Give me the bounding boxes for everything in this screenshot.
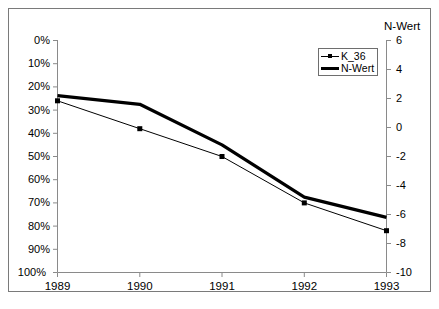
- y-left-tick-label: 80%: [8, 221, 50, 232]
- caption-partial-text: [6, 301, 176, 308]
- y-right-tick-label: 4: [396, 64, 432, 75]
- y-left-tick-label: 90%: [8, 244, 50, 255]
- y-right-tick-label: -6: [396, 209, 432, 220]
- y-left-tick-label: 40%: [8, 128, 50, 139]
- y-left-tick-label: 30%: [8, 105, 50, 116]
- y-axis-left-ticks: [53, 41, 58, 273]
- series-line-k-36: [58, 101, 387, 231]
- x-axis-label-1989: 1989: [31, 281, 85, 292]
- x-axis-label-1991: 1991: [195, 281, 249, 292]
- y-left-tick-label: 10%: [8, 58, 50, 69]
- x-axis-ticks: [58, 273, 387, 278]
- y-left-tick-label: 60%: [8, 174, 50, 185]
- y-right-tick-label: -4: [396, 180, 432, 191]
- y-left-tick-label: 0%: [8, 35, 50, 46]
- x-axis-label-1992: 1992: [277, 281, 331, 292]
- legend-label-k-36: K_36: [341, 51, 366, 62]
- y-right-tick-label: -2: [396, 151, 432, 162]
- chart-legend: K_36 N-Wert: [318, 48, 378, 76]
- legend-swatch-k-36-icon: [321, 51, 339, 62]
- y-left-tick-label: 100%: [4, 267, 46, 278]
- x-axis-label-1993: 1993: [360, 281, 414, 292]
- y-left-tick-label: 50%: [8, 151, 50, 162]
- chart-plot-area: [0, 0, 439, 309]
- y-right-tick-label: 0: [396, 122, 432, 133]
- y-right-tick-label: 2: [396, 93, 432, 104]
- legend-swatch-n-wert-icon: [321, 63, 339, 74]
- y-left-tick-label: 20%: [8, 81, 50, 92]
- x-axis-label-1990: 1990: [113, 281, 167, 292]
- right-axis-title: N-Wert: [384, 20, 420, 32]
- series-markers-k-36: [55, 98, 389, 233]
- y-right-tick-label: -10: [396, 267, 432, 278]
- legend-label-n-wert: N-Wert: [341, 63, 374, 74]
- legend-item-n-wert: N-Wert: [321, 62, 374, 75]
- y-axis-right-ticks: [387, 41, 392, 273]
- y-left-tick-label: 70%: [8, 197, 50, 208]
- y-right-tick-label: 6: [396, 35, 432, 46]
- y-right-tick-label: -8: [396, 238, 432, 249]
